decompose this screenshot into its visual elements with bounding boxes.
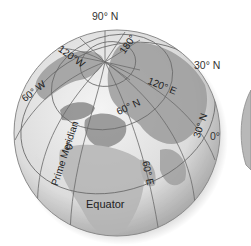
label-lat-0-outer: 0° — [210, 131, 220, 142]
label-equator: Equator — [86, 199, 125, 210]
globe-diagram: 90° N 30° N 0° 120°W 180° 60° W 120° E 6… — [0, 0, 251, 246]
second-globe-edge — [241, 90, 251, 170]
label-north-pole: 90° N — [92, 11, 118, 22]
label-lat-30n-outer: 30° N — [194, 60, 220, 71]
